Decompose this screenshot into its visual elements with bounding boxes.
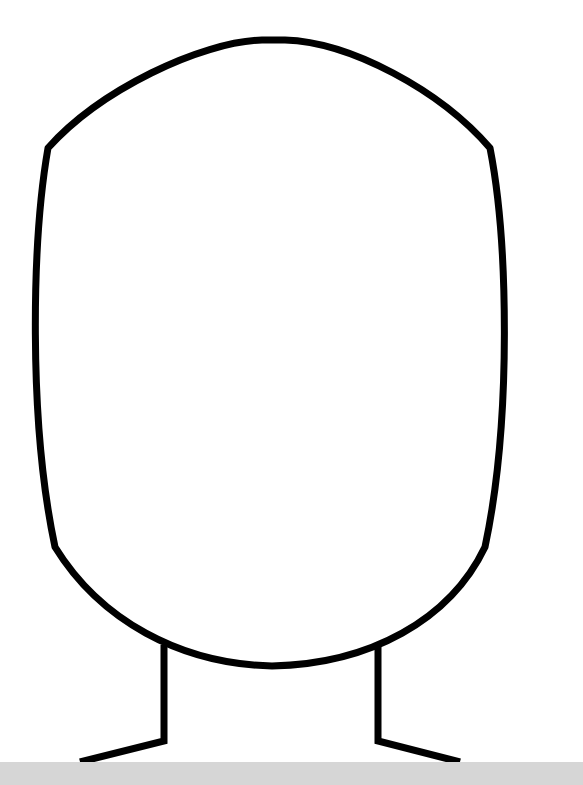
- face-outline-drawing: [0, 0, 583, 785]
- bottom-gray-bar: [0, 762, 583, 785]
